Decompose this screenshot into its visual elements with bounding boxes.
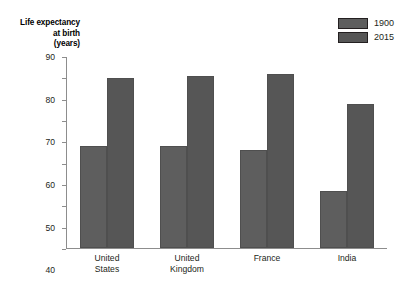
y-tick-mark: 70: [62, 100, 66, 101]
legend-swatch-2015: [338, 32, 368, 43]
x-axis-label: France: [227, 253, 307, 274]
y-tick-label: 40: [45, 266, 55, 275]
y-tick-mark: 20: [62, 206, 66, 207]
plot-area: 0102030405060708090: [66, 57, 387, 249]
y-tick-mark: 10: [62, 228, 66, 229]
bar-group: [67, 57, 147, 248]
legend-label-2015: 2015: [374, 33, 394, 42]
x-axis-label: UnitedKingdom: [147, 253, 227, 274]
x-axis-label-line: States: [67, 264, 147, 275]
y-tick-mark: 60: [62, 121, 66, 122]
y-tick-label: 80: [45, 95, 55, 104]
x-axis-labels: UnitedStatesUnitedKingdomFranceIndia: [67, 253, 387, 274]
x-axis-label-line: United: [147, 253, 227, 264]
bar-2015: [187, 76, 214, 248]
bar-group: [307, 57, 387, 248]
x-axis-label-line: India: [307, 253, 387, 264]
y-axis-title: Life expectancy at birth (years): [4, 18, 80, 50]
bar-2015: [107, 78, 134, 248]
chart-legend: 1900 2015: [338, 18, 394, 43]
y-tick-mark: 30: [62, 185, 66, 186]
y-tick-label: 50: [45, 223, 55, 232]
y-tick-mark: 40: [62, 164, 66, 165]
bar-chart: Life expectancy at birth (years) 1900 20…: [0, 0, 402, 292]
x-axis-line: [66, 248, 387, 249]
x-axis-label-line: France: [227, 253, 307, 264]
y-tick-mark: 50: [62, 142, 66, 143]
x-axis-label-line: United: [67, 253, 147, 264]
bar-group: [147, 57, 227, 248]
x-axis-label: India: [307, 253, 387, 274]
x-axis-label: UnitedStates: [67, 253, 147, 274]
legend-item-1900: 1900: [338, 18, 394, 29]
bar-2015: [347, 104, 374, 248]
y-tick-label: 70: [45, 138, 55, 147]
y-axis-title-line-1: Life expectancy: [4, 18, 80, 29]
bar-groups: [67, 57, 387, 248]
legend-item-2015: 2015: [338, 32, 394, 43]
y-tick-mark: 0: [62, 249, 66, 250]
bar-2015: [267, 74, 294, 248]
y-tick-label: 60: [45, 181, 55, 190]
x-axis-label-line: Kingdom: [147, 264, 227, 275]
y-axis-title-line-2: at birth: [4, 29, 80, 40]
legend-label-1900: 1900: [374, 19, 394, 28]
y-tick-mark: 90: [62, 57, 66, 58]
y-tick-mark: 80: [62, 78, 66, 79]
bar-group: [227, 57, 307, 248]
bar-1900: [320, 191, 347, 248]
y-tick-label: 90: [45, 53, 55, 62]
bar-1900: [240, 150, 267, 248]
bar-1900: [80, 146, 107, 248]
legend-swatch-1900: [338, 18, 368, 29]
y-axis-title-line-3: (years): [4, 39, 80, 50]
bar-1900: [160, 146, 187, 248]
